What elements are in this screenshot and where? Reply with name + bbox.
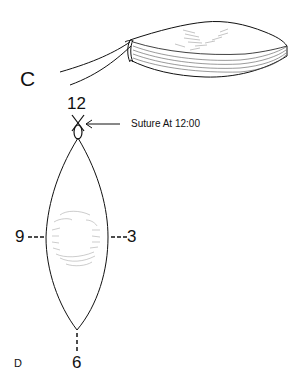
suture-annotation: Suture At 12:00 [131, 119, 200, 129]
clock-tick-marks [28, 237, 127, 351]
clock-label-3: 3 [127, 228, 136, 245]
panel-label-d: D [14, 358, 22, 369]
arrow-icon [86, 120, 120, 128]
figure-drawing [0, 0, 300, 377]
clock-label-9: 9 [15, 228, 24, 245]
clock-label-12: 12 [67, 95, 86, 112]
lens-shape [46, 138, 108, 330]
lens-hatching [52, 211, 100, 265]
clock-label-6: 6 [72, 354, 81, 371]
suture-strand-c [60, 41, 133, 86]
panel-label-c: C [20, 68, 35, 89]
disc-illustration [128, 21, 287, 77]
suture-knot [72, 115, 84, 139]
